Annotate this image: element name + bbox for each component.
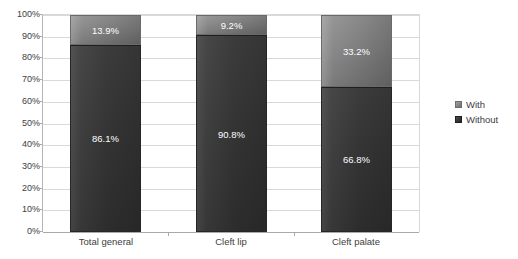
plot-area: 86.1%13.9%90.8%9.2%66.8%33.2%	[42, 14, 420, 232]
bar-segment-without[interactable]: 66.8%	[321, 87, 392, 232]
without-swatch-icon	[455, 116, 462, 123]
y-axis-tick-label: 60%	[2, 96, 40, 106]
cropped-caption	[6, 250, 206, 259]
bar-segment-with[interactable]: 33.2%	[321, 15, 392, 87]
y-axis-tick-label: 100%	[2, 9, 40, 19]
bar-value-label-with: 9.2%	[197, 20, 266, 31]
legend-item-with[interactable]: With	[455, 97, 515, 112]
y-axis-tick-label: 50%	[2, 118, 40, 128]
bar-column[interactable]: 90.8%9.2%	[196, 15, 267, 232]
with-swatch-icon	[455, 101, 462, 108]
chart-legend: With Without	[455, 97, 515, 127]
x-axis-category-label: Total general	[46, 236, 166, 247]
gridline	[43, 232, 419, 233]
y-axis-tick-label: 80%	[2, 52, 40, 62]
legend-label-without: Without	[466, 114, 498, 125]
bar-value-label-without: 90.8%	[197, 129, 266, 140]
x-axis-tick-mark	[168, 232, 169, 236]
y-axis: 100%90%80%70%60%50%40%30%20%10%0%	[0, 0, 40, 259]
bar-column[interactable]: 86.1%13.9%	[70, 15, 141, 232]
bar-column[interactable]: 66.8%33.2%	[321, 15, 392, 232]
y-axis-tick-label: 0%	[2, 226, 40, 236]
bar-segment-with[interactable]: 13.9%	[70, 15, 141, 45]
y-axis-tick-label: 90%	[2, 31, 40, 41]
y-axis-tick-label: 20%	[2, 183, 40, 193]
x-axis-category-label: Cleft palate	[296, 236, 416, 247]
stacked-bar-chart: 100%90%80%70%60%50%40%30%20%10%0% 86.1%1…	[0, 0, 518, 259]
bar-segment-without[interactable]: 90.8%	[196, 35, 267, 232]
y-axis-tick-label: 40%	[2, 139, 40, 149]
bar-value-label-with: 33.2%	[322, 46, 391, 57]
y-axis-tick-label: 30%	[2, 161, 40, 171]
bar-segment-with[interactable]: 9.2%	[196, 15, 267, 35]
x-axis-tick-mark	[294, 232, 295, 236]
legend-item-without[interactable]: Without	[455, 112, 515, 127]
x-axis-category-label: Cleft lip	[171, 236, 291, 247]
bar-value-label-with: 13.9%	[71, 25, 140, 36]
y-axis-tick-label: 70%	[2, 74, 40, 84]
bar-segment-without[interactable]: 86.1%	[70, 45, 141, 232]
legend-label-with: With	[466, 99, 485, 110]
bar-value-label-without: 66.8%	[322, 154, 391, 165]
y-axis-tick-label: 10%	[2, 204, 40, 214]
bar-value-label-without: 86.1%	[71, 133, 140, 144]
